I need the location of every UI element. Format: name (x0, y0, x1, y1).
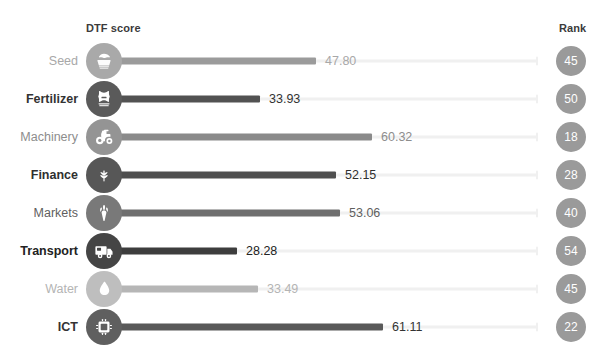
value-bar (104, 248, 237, 255)
chart-row: Finance 52.1528 (0, 156, 605, 194)
truck-icon (93, 240, 116, 263)
chart-row: Water 33.4945 (0, 270, 605, 308)
rank-badge: 40 (556, 198, 586, 228)
value-label: 52.15 (345, 168, 376, 182)
row-track-end-cap (536, 247, 538, 256)
rank-badge: 18 (556, 122, 586, 152)
row-track-end-cap (536, 57, 538, 66)
carrot-icon (93, 202, 115, 224)
water-drop-icon (94, 279, 115, 300)
value-bar (104, 324, 383, 331)
chart-row: Markets 53.0640 (0, 194, 605, 232)
row-track-end-cap (536, 95, 538, 104)
value-label: 33.49 (267, 282, 298, 296)
value-label: 33.93 (269, 92, 300, 106)
value-bar (104, 58, 316, 65)
row-track-end-cap (536, 209, 538, 218)
dtf-score-lollipop-chart: DTF score Rank Seed 47.8045Fertilizer 33… (0, 0, 605, 361)
tractor-icon (93, 126, 116, 149)
category-label: Machinery (20, 130, 78, 144)
value-bar (104, 172, 336, 179)
row-track-end-cap (536, 323, 538, 332)
chart-row: Machinery 60.3218 (0, 118, 605, 156)
value-bar (104, 96, 260, 103)
row-track-end-cap (536, 285, 538, 294)
value-label: 28.28 (246, 244, 277, 258)
category-label: Fertilizer (26, 92, 78, 106)
rank-badge: 22 (556, 312, 586, 342)
rank-badge: 45 (556, 46, 586, 76)
value-label: 61.11 (392, 320, 422, 334)
carrot-icon-badge[interactable] (86, 195, 122, 231)
water-drop-icon-badge[interactable] (86, 271, 122, 307)
rank-badge: 28 (556, 160, 586, 190)
computer-chip-icon (93, 316, 115, 338)
chart-row: Transport 28.2854 (0, 232, 605, 270)
tractor-icon-badge[interactable] (86, 119, 122, 155)
chart-row: Seed 47.8045 (0, 42, 605, 80)
seed-icon (93, 50, 115, 72)
chart-row: ICT 61.1122 (0, 308, 605, 346)
value-bar (104, 134, 372, 141)
dtf-score-column-header: DTF score (86, 22, 141, 34)
row-track-end-cap (536, 171, 538, 180)
rank-badge: 45 (556, 274, 586, 304)
plant-coin-icon (93, 164, 115, 186)
plant-coin-icon-badge[interactable] (86, 157, 122, 193)
fertilizer-bag-icon (93, 88, 115, 110)
chart-row: Fertilizer 33.9350 (0, 80, 605, 118)
row-track-end-cap (536, 133, 538, 142)
computer-chip-icon-badge[interactable] (86, 309, 122, 345)
value-label: 47.80 (325, 54, 356, 68)
rank-column-header: Rank (559, 22, 586, 34)
value-label: 53.06 (349, 206, 380, 220)
rank-badge: 50 (556, 84, 586, 114)
fertilizer-bag-icon-badge[interactable] (86, 81, 122, 117)
value-bar (104, 210, 340, 217)
category-label: Finance (31, 168, 78, 182)
value-label: 60.32 (381, 130, 412, 144)
category-label: Seed (49, 54, 78, 68)
seed-icon-badge[interactable] (86, 43, 122, 79)
category-label: Markets (34, 206, 78, 220)
truck-icon-badge[interactable] (86, 233, 122, 269)
rank-badge: 54 (556, 236, 586, 266)
category-label: Water (45, 282, 78, 296)
value-bar (104, 286, 258, 293)
category-label: ICT (58, 320, 78, 334)
category-label: Transport (20, 244, 78, 258)
